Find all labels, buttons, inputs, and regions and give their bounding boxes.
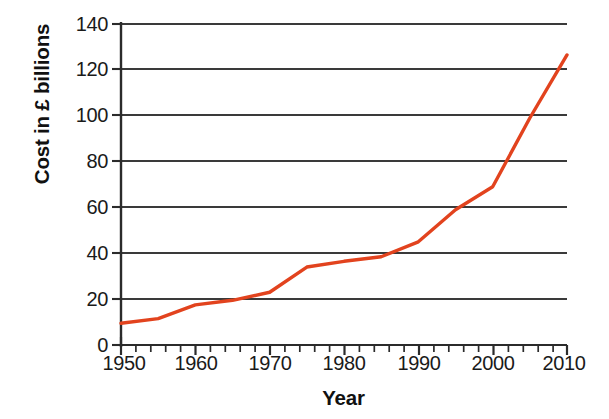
x-tick-label-1990: 1990 — [379, 352, 459, 375]
x-tick-label-2010: 2010 — [524, 352, 604, 375]
x-tick-label-2000: 2000 — [453, 352, 533, 375]
x-axis-title: Year — [120, 386, 567, 410]
line-chart: Cost in £ billions 140 120 100 80 60 40 … — [0, 0, 609, 419]
x-tick-label-1950: 1950 — [84, 352, 164, 375]
gridlines — [120, 24, 567, 299]
y-axis-ticks — [112, 24, 121, 345]
x-tick-label-1960: 1960 — [156, 352, 236, 375]
x-tick-label-1980: 1980 — [304, 352, 384, 375]
x-tick-label-1970: 1970 — [230, 352, 310, 375]
data-series-line — [121, 55, 567, 323]
